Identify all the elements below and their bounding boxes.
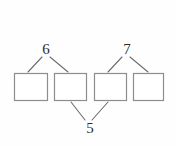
label-five: 5 (80, 121, 100, 136)
edge-seven-to-box-four (130, 57, 148, 72)
edge-seven-to-box-three (108, 57, 122, 72)
edge-five-to-box-two (71, 102, 85, 120)
number-bond-diagram: 6 7 5 (0, 0, 176, 146)
answer-box-1[interactable] (15, 74, 48, 101)
label-seven: 7 (117, 42, 137, 57)
edge-six-to-box-one (28, 57, 42, 72)
edge-six-to-box-two (50, 57, 68, 72)
answer-box-2[interactable] (55, 74, 87, 101)
answer-box-4[interactable] (134, 74, 164, 101)
label-six: 6 (36, 42, 56, 57)
answer-box-3[interactable] (95, 74, 127, 101)
edge-five-to-box-three (92, 102, 108, 120)
